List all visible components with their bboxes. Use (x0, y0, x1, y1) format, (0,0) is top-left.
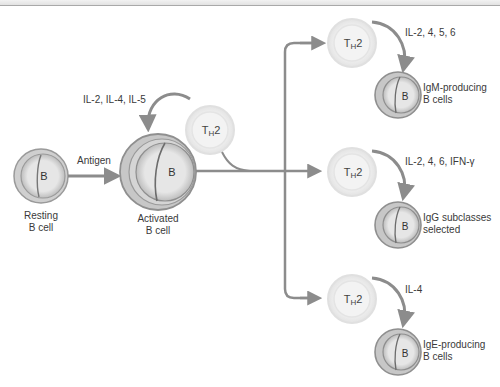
resting-label-line2: B cell (18, 222, 64, 234)
activation-cytokines-label: IL-2, IL-4, IL-5 (83, 94, 146, 106)
activated-cell-label: Activated B cell (128, 213, 188, 237)
th2-label-helper: TH2 (202, 124, 221, 138)
ige-cytokines-label: IL-4 (405, 284, 422, 296)
th2-label-top: TH2 (344, 37, 363, 51)
th2-label-bottom: TH2 (344, 293, 363, 307)
igg-b-cell (375, 202, 421, 248)
igg-outcome-label: IgG subclasses selected (423, 212, 491, 236)
igg-cytokines-label: IL-2, 4, 6, IFN-γ (405, 156, 474, 168)
activated-b-cell (120, 134, 196, 210)
igm-cell-letter: B (402, 91, 409, 102)
igg-outcome-line2: selected (423, 224, 491, 236)
ige-outcome-line1: IgE-producing (423, 339, 485, 351)
igm-outcome-line2: B cells (423, 94, 487, 106)
igg-cell-letter: B (402, 221, 409, 232)
th2-contact-line (222, 152, 250, 171)
activated-label-line1: Activated (128, 213, 188, 225)
ige-outcome-line2: B cells (423, 351, 485, 363)
ige-cell-letter: B (402, 348, 409, 359)
antigen-label: Antigen (77, 155, 111, 167)
activated-cell-letter: B (168, 166, 175, 178)
ige-outcome-label: IgE-producing B cells (423, 339, 485, 363)
diagram-canvas (0, 0, 500, 387)
igm-outcome-label: IgM-producing B cells (423, 82, 487, 106)
igm-cytokines-label: IL-2, 4, 5, 6 (405, 27, 456, 39)
resting-cell-letter: B (40, 170, 47, 182)
th2-label-middle: TH2 (344, 166, 363, 180)
igm-outcome-line1: IgM-producing (423, 82, 487, 94)
activation-cytokine-arrow (148, 94, 190, 125)
igg-outcome-line1: IgG subclasses (423, 212, 491, 224)
resting-cell-label: Resting B cell (18, 210, 64, 234)
activated-label-line2: B cell (128, 225, 188, 237)
igm-b-cell (375, 72, 421, 118)
resting-label-line1: Resting (18, 210, 64, 222)
ige-b-cell (375, 329, 421, 375)
